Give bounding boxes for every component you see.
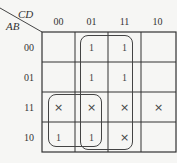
kmap-cell: [141, 122, 176, 152]
kmap-cell: [42, 32, 75, 62]
row-variables-label: AB: [6, 21, 19, 32]
column-header: 00: [42, 17, 75, 27]
column-header: 11: [108, 17, 141, 27]
column-header: 10: [141, 17, 174, 27]
column-variables-label: CD: [18, 9, 33, 20]
group-loop-rows-11-10: [48, 94, 102, 147]
kmap-cell: ×: [141, 92, 176, 122]
row-header: 01: [14, 73, 34, 83]
kmap-cell: [141, 62, 176, 92]
column-header: 01: [75, 17, 108, 27]
row-header: 00: [14, 43, 34, 53]
kmap-cell: [141, 32, 176, 62]
kmap-cell: [42, 62, 75, 92]
row-header: 11: [14, 103, 34, 113]
row-header: 10: [14, 133, 34, 143]
